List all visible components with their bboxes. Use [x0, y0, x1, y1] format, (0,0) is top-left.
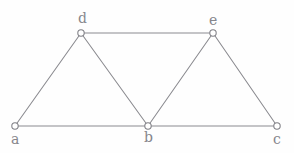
vertex-label-b: b [144, 130, 153, 144]
diagram-canvas: abcde [0, 0, 294, 153]
vertex-label-c: c [273, 132, 281, 146]
vertex-label-d: d [78, 11, 87, 25]
edge-b-e [148, 33, 213, 126]
vertices-group [12, 30, 280, 129]
vertex-label-e: e [209, 13, 217, 27]
edge-a-d [15, 33, 81, 126]
vertex-node-d[interactable] [78, 30, 84, 36]
vertex-node-e[interactable] [210, 30, 216, 36]
edges-group [15, 33, 277, 126]
edge-d-b [81, 33, 148, 126]
vertex-node-c[interactable] [274, 123, 280, 129]
vertex-node-a[interactable] [12, 123, 18, 129]
edge-e-c [213, 33, 277, 126]
vertex-label-a: a [11, 132, 19, 146]
